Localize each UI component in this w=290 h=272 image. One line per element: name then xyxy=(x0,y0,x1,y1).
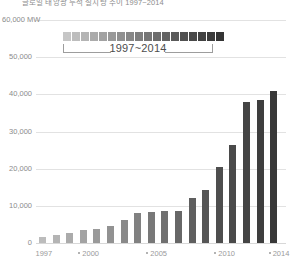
bar xyxy=(66,233,73,243)
legend-swatch xyxy=(108,32,116,41)
y-axis-tick-label: 20,000 xyxy=(0,164,32,173)
legend-swatch xyxy=(153,32,161,41)
bar xyxy=(148,212,155,243)
bar xyxy=(202,190,209,243)
bar xyxy=(189,198,196,243)
bar xyxy=(243,102,250,243)
bar xyxy=(216,167,223,243)
legend-swatch xyxy=(180,32,188,41)
bar xyxy=(121,220,128,243)
x-axis-tick-label: 2014 xyxy=(273,249,290,258)
legend-swatch xyxy=(144,32,152,41)
legend-swatch xyxy=(162,32,170,41)
solar-capacity-bar-chart: 글로벌 태양광 누적 설치량 추이 1997~2014 60,000 MW50,… xyxy=(0,0,290,272)
x-axis-tick-dot xyxy=(78,252,80,254)
legend-swatch xyxy=(63,32,71,41)
x-axis-tick-label: 2000 xyxy=(82,249,99,258)
legend-swatch xyxy=(198,32,206,41)
bar xyxy=(53,235,60,243)
legend-swatch xyxy=(72,32,80,41)
legend-swatch xyxy=(117,32,125,41)
x-axis-tick-label: 1997 xyxy=(36,249,53,258)
bar xyxy=(257,100,264,243)
legend-swatch xyxy=(99,32,107,41)
legend-swatch xyxy=(135,32,143,41)
chart-title: 글로벌 태양광 누적 설치량 추이 1997~2014 xyxy=(22,0,290,7)
y-axis-tick-label: 30,000 xyxy=(0,127,32,136)
bar xyxy=(134,213,141,243)
legend-swatch xyxy=(81,32,89,41)
legend-range-label: 1997~2014 xyxy=(63,42,213,54)
bar xyxy=(270,91,277,243)
x-axis-tick-label: 2010 xyxy=(218,249,235,258)
x-axis-line xyxy=(36,243,286,244)
bar xyxy=(107,226,114,243)
bar xyxy=(175,211,182,243)
y-axis-tick-label: 0 xyxy=(0,238,32,247)
legend-swatch xyxy=(171,32,179,41)
y-axis-tick-label: 60,000 MW xyxy=(2,15,60,24)
legend-swatch xyxy=(189,32,197,41)
x-axis-tick-dot xyxy=(214,252,216,254)
bar xyxy=(80,230,87,243)
x-axis-tick-label: 2005 xyxy=(150,249,167,258)
y-axis-tick-label: 10,000 xyxy=(0,201,32,210)
legend-swatch xyxy=(126,32,134,41)
y-axis-tick-label: 50,000 xyxy=(0,52,32,61)
x-axis-tick-dot xyxy=(146,252,148,254)
legend-gradient-strip xyxy=(63,32,225,41)
legend-swatch xyxy=(216,32,224,41)
legend-swatch xyxy=(207,32,215,41)
bar xyxy=(161,211,168,243)
x-axis-tick-dot xyxy=(269,252,271,254)
y-axis-tick-label: 40,000 xyxy=(0,89,32,98)
bar xyxy=(229,145,236,243)
legend-swatch xyxy=(90,32,98,41)
bar xyxy=(93,229,100,243)
